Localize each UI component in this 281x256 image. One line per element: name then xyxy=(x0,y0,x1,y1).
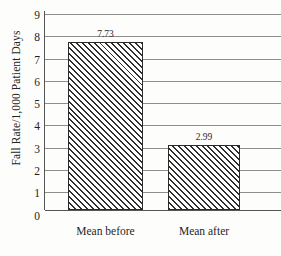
y-tick-6: 6 xyxy=(10,77,40,89)
y-tick-8: 8 xyxy=(10,32,40,44)
bar-value-mean-before: 7.73 xyxy=(68,30,143,40)
y-tick-1: 1 xyxy=(10,188,40,200)
bar-mean-before[interactable] xyxy=(68,42,143,211)
x-category-mean-before: Mean before xyxy=(58,226,153,238)
y-tick-2: 2 xyxy=(10,166,40,178)
bar-chart-figure: Fall Rate/1,000 Patient Days 9 8 7 6 5 4… xyxy=(0,0,281,256)
gridline-9 xyxy=(45,14,281,15)
y-tick-0: 0 xyxy=(10,211,40,223)
x-category-mean-after: Mean after xyxy=(163,226,245,238)
y-tick-9: 9 xyxy=(10,10,40,22)
y-axis-tick-labels: 9 8 7 6 5 4 3 2 1 0 xyxy=(0,14,40,215)
bar-value-mean-after: 2.99 xyxy=(168,133,240,143)
x-axis-category-labels: Mean before Mean after xyxy=(45,226,281,246)
plot-area: 7.73 2.99 xyxy=(45,14,281,215)
bar-mean-after[interactable] xyxy=(168,145,240,211)
y-tick-3: 3 xyxy=(10,144,40,156)
y-tick-7: 7 xyxy=(10,55,40,67)
y-tick-5: 5 xyxy=(10,99,40,111)
y-tick-4: 4 xyxy=(10,121,40,133)
